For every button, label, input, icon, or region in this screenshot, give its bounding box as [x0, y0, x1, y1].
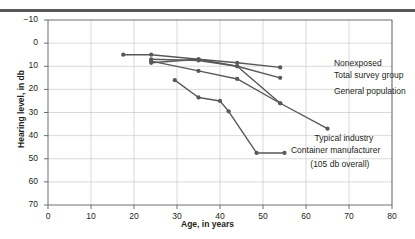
series-label-typical-industry: Typical industry	[315, 133, 374, 143]
x-tick-label: 20	[119, 211, 149, 221]
y-tick-label: 20	[12, 83, 38, 93]
y-tick-label: 30	[12, 107, 38, 117]
series-label-nonexposed: Nonexposed	[334, 58, 382, 68]
y-tick-label: 50	[12, 153, 38, 163]
x-tick-label: 0	[33, 211, 63, 221]
y-tick-label: 70	[12, 199, 38, 209]
y-tick-label: 40	[12, 130, 38, 140]
x-tick-label: 40	[205, 211, 235, 221]
y-tick-label: 60	[12, 176, 38, 186]
x-tick-label: 80	[377, 211, 407, 221]
series-label-container-manufacturer: Container manufacturer	[291, 145, 380, 155]
x-tick-label: 70	[334, 211, 364, 221]
y-tick-label: 0	[12, 37, 38, 47]
plot-area	[0, 0, 415, 239]
x-tick-label: 60	[291, 211, 321, 221]
hearing-level-chart: Hearing level, in db Age, in years −1001…	[0, 0, 415, 239]
y-tick-label: 10	[12, 60, 38, 70]
x-tick-label: 10	[76, 211, 106, 221]
series-sublabel-container-manufacturer: (105 db overall)	[310, 159, 369, 169]
y-tick-label: −10	[12, 14, 38, 24]
series-label-total-survey-group: Total survey group	[334, 70, 403, 80]
x-tick-label: 50	[248, 211, 278, 221]
series-label-general-population: General population	[334, 86, 406, 96]
x-tick-label: 30	[162, 211, 192, 221]
